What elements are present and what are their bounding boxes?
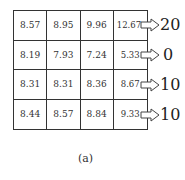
figure-caption: (a) xyxy=(78,152,93,165)
grid-cell: 8.19 xyxy=(14,41,47,71)
grid-cell: 7.93 xyxy=(47,41,80,71)
row-output-label: 0 xyxy=(163,47,173,63)
grid-cell: 8.84 xyxy=(81,100,114,130)
grid-cell: 9.96 xyxy=(81,11,114,41)
arrow-right-icon xyxy=(140,78,160,92)
grid-cell: 8.57 xyxy=(47,100,80,130)
grid-cell: 8.31 xyxy=(14,70,47,100)
row-output-label: 10 xyxy=(160,77,180,93)
grid-cell: 8.57 xyxy=(14,11,47,41)
value-grid: 8.57 8.95 9.96 12.67 8.19 7.93 7.24 5.33… xyxy=(13,10,148,130)
arrow-right-icon xyxy=(140,18,160,32)
grid-cell: 8.44 xyxy=(14,100,47,130)
arrow-right-icon xyxy=(140,108,160,122)
grid-cell: 8.95 xyxy=(47,11,80,41)
grid-cell: 8.31 xyxy=(47,70,80,100)
grid-cell: 7.24 xyxy=(81,41,114,71)
grid-cell: 8.36 xyxy=(81,70,114,100)
row-output-label: 20 xyxy=(160,17,180,33)
row-output-label: 10 xyxy=(160,107,180,123)
arrow-right-icon xyxy=(140,48,160,62)
